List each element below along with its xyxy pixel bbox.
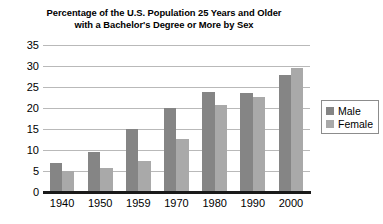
bar-female-2000 [291, 68, 303, 192]
bar-male-1959 [126, 129, 138, 192]
legend-label: Female [338, 118, 373, 130]
legend-item-male: Male [326, 104, 373, 117]
chart-title-line-1: Percentage of the U.S. Population 25 Yea… [14, 7, 314, 19]
bar-group [164, 45, 189, 192]
x-tick-label: 1980 [196, 197, 234, 210]
bar-chart-figure: Percentage of the U.S. Population 25 Yea… [0, 0, 383, 224]
chart-title: Percentage of the U.S. Population 25 Yea… [14, 7, 314, 30]
legend-swatch-female-icon [326, 120, 334, 128]
bar-group [240, 45, 265, 192]
y-tick-label: 30 [0, 61, 39, 72]
legend-item-female: Female [326, 117, 373, 130]
bar-female-1959 [138, 161, 150, 193]
y-tick-label: 0 [0, 187, 39, 198]
bar-group [202, 45, 227, 192]
bar-male-1990 [240, 93, 252, 192]
bar-group [126, 45, 151, 192]
bar-female-1990 [253, 97, 265, 192]
x-tick-label: 1970 [157, 197, 195, 210]
bar-female-1980 [215, 105, 227, 192]
y-tick-label: 15 [0, 124, 39, 135]
x-axis: 1940195019591970198019902000 [43, 197, 310, 213]
bar-female-1970 [176, 139, 188, 192]
bar-group [50, 45, 75, 192]
bar-male-1980 [202, 92, 214, 192]
y-tick-label: 5 [0, 166, 39, 177]
bar-group [88, 45, 113, 192]
x-axis-baseline [43, 191, 311, 194]
bar-male-1950 [88, 152, 100, 192]
legend-label: Male [338, 105, 361, 117]
chart-title-line-2: with a Bachelor's Degree or More by Sex [14, 19, 314, 31]
y-axis: 05101520253035 [0, 45, 39, 192]
bars-layer [43, 45, 310, 192]
chart-legend: MaleFemale [321, 100, 379, 134]
bar-male-2000 [279, 75, 291, 192]
y-tick-label: 10 [0, 145, 39, 156]
y-tick-label: 20 [0, 103, 39, 114]
bar-male-1940 [50, 163, 62, 192]
x-tick-label: 1950 [81, 197, 119, 210]
legend-swatch-male-icon [326, 107, 334, 115]
x-tick-label: 1990 [234, 197, 272, 210]
bar-group [279, 45, 304, 192]
y-tick-label: 25 [0, 82, 39, 93]
bar-male-1970 [164, 108, 176, 192]
x-tick-label: 1959 [119, 197, 157, 210]
bar-female-1950 [100, 168, 112, 192]
bar-female-1940 [62, 171, 74, 192]
x-tick-label: 2000 [272, 197, 310, 210]
x-tick-label: 1940 [43, 197, 81, 210]
y-tick-label: 35 [0, 40, 39, 51]
